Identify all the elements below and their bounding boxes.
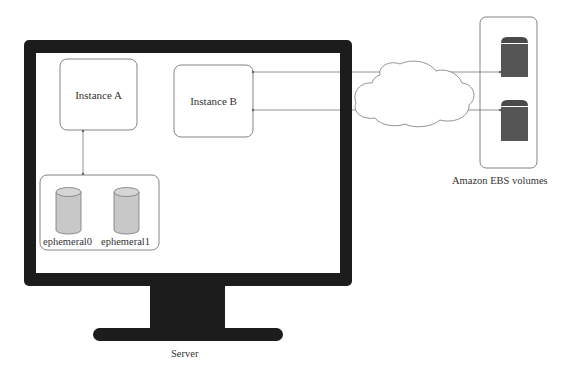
ephemeral0-label: ephemeral0 bbox=[43, 236, 92, 247]
cloud-icon bbox=[355, 61, 474, 127]
instance-a-label: Instance A bbox=[60, 59, 137, 130]
ebs-volume-1-disk-icon[interactable] bbox=[501, 37, 528, 77]
monitor-neck bbox=[150, 285, 225, 330]
ephemeral1-cylinder-icon bbox=[114, 188, 139, 235]
server-label: Server bbox=[171, 348, 198, 359]
ebs-volume-2-disk-icon[interactable] bbox=[501, 100, 528, 141]
ebs-volumes-label: Amazon EBS volumes bbox=[452, 175, 548, 186]
ephemeral1-label: ephemeral1 bbox=[101, 236, 150, 247]
instance-b-label: Instance B bbox=[174, 65, 253, 137]
monitor-base bbox=[93, 328, 283, 341]
diagram-svg bbox=[0, 0, 575, 373]
ephemeral0-cylinder-icon bbox=[56, 188, 81, 235]
diagram-canvas: Instance A Instance B ephemeral0 ephemer… bbox=[0, 0, 575, 373]
